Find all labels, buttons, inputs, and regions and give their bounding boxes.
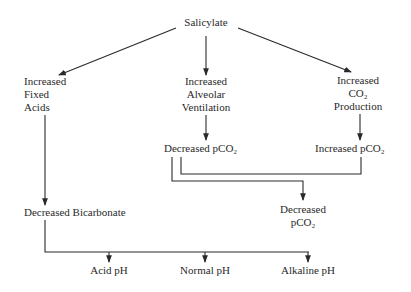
label-line: Increased: [185, 75, 228, 87]
node-increased-fixed-acids: Increased Fixed Acids: [24, 75, 67, 113]
node-increased-alveolar-ventilation: Increased Alveolar Ventilation: [182, 75, 231, 113]
label-line: pCO₂: [291, 216, 316, 228]
label-line: Increased: [24, 75, 67, 87]
arrow-to-co2-production: [238, 28, 351, 72]
arrow-to-fixed-acids: [59, 28, 176, 75]
label-line: Ventilation: [182, 101, 231, 113]
node-decreased-pco2: Decreased pCO₂: [164, 142, 237, 154]
node-increased-co2-production: Increased CO₂ Production: [334, 74, 383, 112]
node-combined-decreased-pco2: Decreased pCO₂: [280, 203, 326, 228]
label-line: Acids: [24, 101, 50, 113]
outcome-acid-ph: Acid pH: [90, 264, 128, 276]
label-line: CO₂: [348, 87, 367, 99]
outcome-alkaline-ph: Alkaline pH: [281, 264, 335, 276]
connector-bottom: [45, 220, 309, 252]
label-line: Alveolar: [187, 88, 226, 100]
connector-inner: [181, 157, 361, 174]
label-line: Increased: [337, 74, 380, 86]
label-line: Decreased: [280, 203, 326, 215]
label-line: Production: [334, 100, 383, 112]
label-line: Fixed: [24, 88, 50, 100]
salicylate-flow-diagram: Salicylate Increased Fixed Acids Increas…: [0, 0, 411, 292]
node-increased-pco2: Increased pCO₂: [315, 142, 385, 154]
node-decreased-bicarbonate: Decreased Bicarbonate: [24, 206, 126, 218]
outcome-normal-ph: Normal pH: [180, 264, 230, 276]
node-salicylate: Salicylate: [184, 16, 227, 28]
connector-outer: [172, 157, 303, 200]
